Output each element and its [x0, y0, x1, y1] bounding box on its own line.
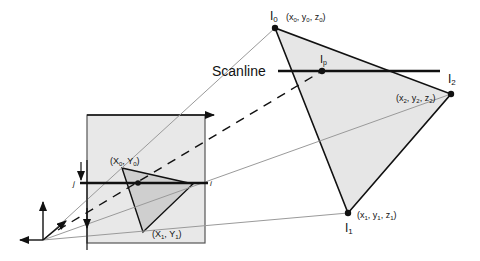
i1-label: I1: [345, 221, 353, 236]
vertex-ip-dot: [319, 68, 325, 74]
vertex-i1-dot: [345, 210, 351, 216]
world-triangle: [275, 28, 451, 213]
scanline-diagram: Scanline I0 (x0, y0, z0) Ip I2 (x2, y2, …: [0, 0, 480, 261]
i1-coords: (x1, y1, z1): [357, 210, 397, 221]
screen-point-dot: [135, 180, 141, 186]
scanline-label: Scanline: [212, 63, 266, 79]
vertex-i2-dot: [448, 91, 454, 97]
vertex-i0-dot: [272, 25, 278, 31]
col-i-label: i: [210, 179, 212, 188]
row-j-label: j: [72, 179, 75, 188]
i0-coords: (x0, y0, z0): [286, 12, 326, 23]
i2-label: I2: [448, 72, 456, 87]
i0-label: I0: [270, 9, 278, 24]
